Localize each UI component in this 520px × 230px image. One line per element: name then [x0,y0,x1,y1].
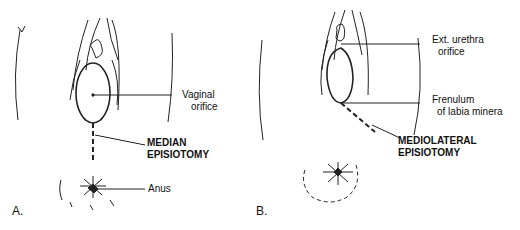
label-frenulum-line2: of labia minera [437,106,503,118]
label-median-episiotomy: MEDIAN [147,137,186,149]
label-ext-urethra-orifice: Ext. urethra [432,34,484,46]
label-vaginal-orifice: Vaginal [182,89,215,101]
label-frenulum: Frenulum [432,94,474,106]
label-anus: Anus [148,183,171,195]
label-mediolateral-episiotomy-line2: EPISIOTOMY [398,147,460,159]
label-median-episiotomy-line2: EPISIOTOMY [147,149,209,161]
panel-a-letter: A. [12,204,23,218]
label-ext-urethra-orifice-line2: orifice [438,46,465,58]
label-mediolateral-episiotomy: MEDIOLATERAL [398,135,477,147]
panel-b-letter: B. [256,204,267,218]
panel-a-drawing [15,18,172,210]
label-vaginal-orifice-line2: orifice [191,101,218,113]
panel-b-drawing [259,10,420,202]
episiotomy-diagram: Vaginal orifice MEDIAN EPISIOTOMY Anus A… [0,0,520,230]
